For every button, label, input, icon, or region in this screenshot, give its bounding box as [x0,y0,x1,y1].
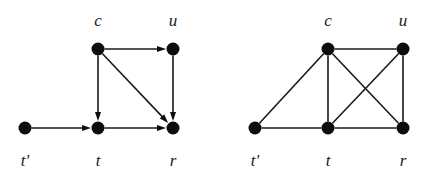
graph-diagram-canvas: cut'trcut'tr [0,0,437,178]
node-c [322,43,335,56]
node-u [397,43,410,56]
arrowhead-c-u [157,46,166,52]
figure-container: cut'trcut'tr [0,0,437,178]
node-label-tp: t' [251,151,260,170]
arrowhead-t-r [157,125,166,131]
node-u [167,43,180,56]
node-label-c: c [94,11,102,30]
node-tp [249,122,262,135]
node-label-c: c [324,11,332,30]
node-label-u: u [169,11,178,30]
arrowhead-tp-t [82,125,91,131]
node-label-u: u [399,11,408,30]
node-t [322,122,335,135]
undirected-graph: cut'tr [249,11,410,170]
node-t [92,122,105,135]
node-label-r: r [400,151,407,170]
node-r [397,122,410,135]
node-label-tp: t' [21,151,30,170]
node-tp [19,122,32,135]
node-label-r: r [170,151,177,170]
node-r [167,122,180,135]
arrowhead-c-t [95,112,101,121]
node-c [92,43,105,56]
edge-c-tp [259,54,323,123]
edge-c-r [102,54,162,118]
node-label-t: t [96,151,102,170]
arrowhead-u-r [170,112,176,121]
node-label-t: t [326,151,332,170]
directed-graph: cut'tr [19,11,180,170]
